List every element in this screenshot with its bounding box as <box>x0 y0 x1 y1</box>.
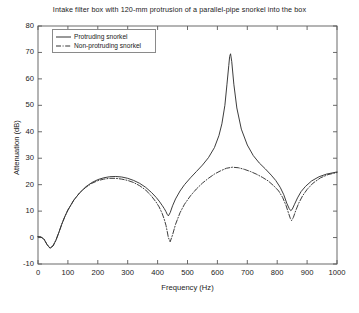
x-tick-label: 300 <box>111 268 145 277</box>
chart-legend: Protruding snorkel Non-protruding snorke… <box>52 29 156 53</box>
x-tick-label: 1000 <box>320 268 354 277</box>
x-tick-label: 400 <box>141 268 175 277</box>
x-tick-label: 900 <box>290 268 324 277</box>
y-tick-label: 70 <box>4 47 34 56</box>
y-tick-label: -10 <box>4 259 34 268</box>
y-tick-label: 80 <box>4 21 34 30</box>
legend-item: Non-protruding snorkel <box>56 41 152 50</box>
legend-line-solid-icon <box>56 33 71 41</box>
x-tick-label: 600 <box>200 268 234 277</box>
x-tick-label: 800 <box>260 268 294 277</box>
x-axis-label: Frequency (Hz) <box>38 283 337 292</box>
legend-line-dashdot-icon <box>56 42 71 50</box>
x-tick-label: 100 <box>51 268 85 277</box>
x-tick-label: 200 <box>81 268 115 277</box>
x-tick-label: 0 <box>21 268 55 277</box>
legend-label-protruding: Protruding snorkel <box>74 32 128 41</box>
chart-figure: Intake filter box with 120-mm protrusion… <box>0 0 359 313</box>
legend-item: Protruding snorkel <box>56 32 152 41</box>
y-axis-label: Attenuation (dB) <box>12 120 21 175</box>
x-tick-label: 500 <box>171 268 205 277</box>
series-line-2 <box>38 167 337 248</box>
y-tick-label: 20 <box>4 180 34 189</box>
series-line-1 <box>38 54 337 248</box>
x-tick-label: 700 <box>230 268 264 277</box>
legend-label-non-protruding: Non-protruding snorkel <box>74 41 141 50</box>
series-lines <box>38 54 337 248</box>
axis-frame <box>38 26 337 264</box>
y-tick-label: 0 <box>4 233 34 242</box>
tick-marks <box>38 26 337 264</box>
y-tick-label: 50 <box>4 100 34 109</box>
y-tick-label: 60 <box>4 74 34 83</box>
y-tick-label: 10 <box>4 206 34 215</box>
